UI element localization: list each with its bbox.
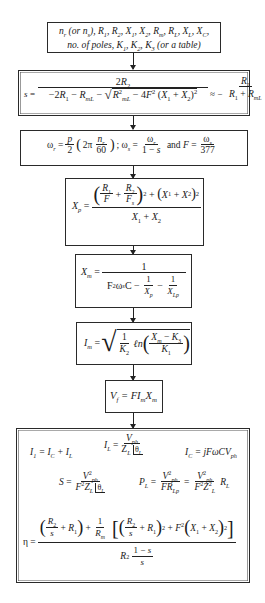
arrow-7 <box>133 413 134 428</box>
im-equation-box: Im = √ 1K2 ℓn ( Xm − K3K1 ) <box>76 322 192 365</box>
i1-equation: I1 = IC + IL <box>30 447 72 457</box>
il-equation: IL = VphZL θL <box>104 433 145 455</box>
arrow-3 <box>133 166 134 178</box>
frequency-equation-box: ωr = p2 (2π nr60 ); ωs = ωr1 − s and F =… <box>20 130 248 166</box>
eta-equation: η = ( R2s + R1 ) + 1Rm [ ( R2s + R1 )2 +… <box>23 517 236 567</box>
inputs-box: nr (or ns), R1, R2, X1, X2, Rm, RL, XL, … <box>47 22 221 53</box>
arrow-5 <box>133 308 134 322</box>
xm-equation-box: Xm = 1 F2ωsC − 1Xp − 1XLp <box>75 254 192 308</box>
im-equation: Im = √ 1K2 ℓn ( Xm − K3K1 ) <box>84 328 190 356</box>
outputs-equation-box: I1 = IC + IL IL = VphZL θL IC = jFωCVph … <box>16 428 250 583</box>
pl-equation: PL = V2phFRLp = V2phF2Z2L RL <box>139 471 229 493</box>
arrow-2 <box>133 116 134 129</box>
frequency-equation: ωr = p2 (2π nr60 ); ωs = ωr1 − s and F =… <box>47 134 217 156</box>
xm-equation: Xm = 1 F2ωsC − 1Xp − 1XLp <box>81 261 186 296</box>
inputs-line-2: no. of poles, K1, K2, K3 (or a table) <box>48 39 220 50</box>
s-equation: S = V2phF2ZL θL <box>59 471 107 493</box>
vf-equation-box: Vf = FImXm <box>105 380 163 413</box>
inputs-line-1: nr (or ns), R1, R2, X1, X2, Rm, RL, XL, … <box>48 25 220 36</box>
ic-equation: IC = jFωCVph <box>185 447 237 457</box>
slip-equation-box: s= 2R2 −2R1 − RmL − √R2mL − 4F2 (X1 + X2… <box>18 70 250 116</box>
arrow-4 <box>133 246 134 254</box>
xp-equation: Xp = ( R1F + R2Fs )2 + (X1 + X2)2 X1 + X… <box>72 183 201 223</box>
vf-equation: Vf = FImXm <box>110 390 157 401</box>
arrow-1 <box>133 53 134 69</box>
xp-equation-box: Xp = ( R1F + R2Fs )2 + (X1 + X2)2 X1 + X… <box>65 178 204 246</box>
arrow-6 <box>133 365 134 380</box>
